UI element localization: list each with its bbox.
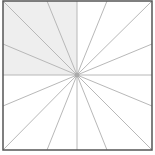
ray-line xyxy=(3,75,77,106)
ray-line xyxy=(77,1,152,75)
ray-line xyxy=(77,75,152,150)
ray-line xyxy=(47,75,77,150)
ray-line xyxy=(77,44,152,75)
radial-lines-diagram xyxy=(0,0,155,155)
center-point xyxy=(75,73,80,78)
ray-line xyxy=(77,75,152,106)
ray-line xyxy=(77,1,107,75)
ray-line xyxy=(3,75,77,150)
ray-line xyxy=(77,75,107,150)
